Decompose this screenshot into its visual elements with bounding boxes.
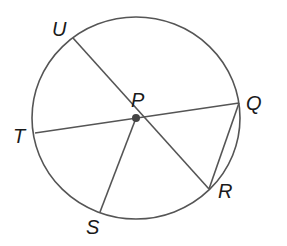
label-T: T bbox=[13, 125, 27, 147]
center-point-P bbox=[132, 114, 140, 122]
label-S: S bbox=[86, 216, 100, 238]
label-U: U bbox=[52, 18, 67, 40]
radius-PS bbox=[100, 118, 136, 212]
label-Q: Q bbox=[246, 92, 262, 114]
circle-diagram: U P Q R S T bbox=[0, 0, 287, 246]
label-R: R bbox=[218, 180, 232, 202]
label-P: P bbox=[131, 89, 145, 111]
diameter-UR bbox=[73, 38, 209, 189]
chord-QR bbox=[209, 103, 239, 189]
